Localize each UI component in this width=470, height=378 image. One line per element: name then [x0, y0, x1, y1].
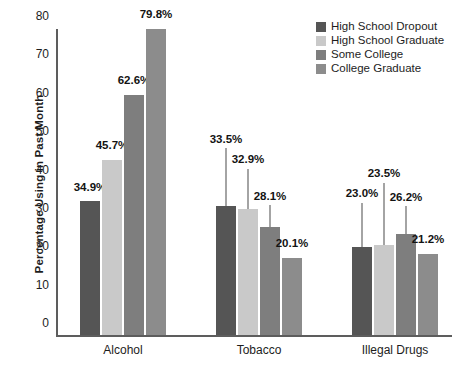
bar-group: 34.9%45.7%62.6%79.8%	[80, 28, 166, 335]
bar[interactable]	[352, 247, 372, 335]
y-tick-label: 60	[36, 87, 49, 99]
bar-column[interactable]: 34.9%	[80, 28, 100, 335]
bar-value-label: 79.8%	[140, 9, 173, 21]
bar[interactable]	[374, 245, 394, 335]
bar-value-label: 20.1%	[276, 238, 309, 250]
bar-column[interactable]: 20.1%	[282, 28, 302, 335]
bar[interactable]	[80, 201, 100, 335]
legend-item[interactable]: High School Dropout	[316, 20, 444, 33]
bar[interactable]	[238, 209, 258, 335]
y-tick-label: 30	[36, 202, 49, 214]
bar[interactable]	[124, 95, 144, 335]
value-leader-line	[226, 148, 227, 206]
legend-swatch-icon	[316, 36, 326, 46]
legend-swatch-icon	[316, 50, 326, 60]
y-tick-label: 50	[36, 125, 49, 137]
category-label: Alcohol	[103, 343, 142, 357]
bar-column[interactable]: 62.6%	[124, 28, 144, 335]
y-tick-label: 70	[36, 48, 49, 60]
bar[interactable]	[102, 160, 122, 335]
legend-label: High School Graduate	[331, 35, 444, 47]
legend-swatch-icon	[316, 22, 326, 32]
value-leader-line	[384, 183, 385, 245]
legend-label: College Graduate	[331, 63, 421, 75]
bar-column[interactable]: 33.5%	[216, 28, 236, 335]
bar-group-bars: 33.5%32.9%28.1%20.1%	[216, 28, 302, 335]
bar-column[interactable]: 32.9%	[238, 28, 258, 335]
category-label: Illegal Drugs	[362, 343, 429, 357]
legend-swatch-icon	[316, 64, 326, 74]
y-tick-label: 10	[36, 279, 49, 291]
y-tick-label: 20	[36, 240, 49, 252]
legend: High School DropoutHigh School GraduateS…	[316, 20, 444, 75]
bar-group-bars: 34.9%45.7%62.6%79.8%	[80, 28, 166, 335]
bar[interactable]	[146, 29, 166, 335]
bar-column[interactable]: 28.1%	[260, 28, 280, 335]
bar-chart: Percentage Using in Past Month 010203040…	[0, 0, 470, 378]
y-tick-label: 0	[42, 317, 49, 329]
value-leader-line	[270, 205, 271, 227]
legend-label: High School Dropout	[331, 21, 437, 33]
x-axis-line	[56, 335, 452, 337]
legend-label: Some College	[331, 49, 403, 61]
bar-value-label: 21.2%	[412, 234, 445, 246]
legend-item[interactable]: Some College	[316, 48, 444, 61]
legend-item[interactable]: College Graduate	[316, 62, 444, 75]
y-tick-label: 80	[36, 10, 49, 22]
bar-group: 33.5%32.9%28.1%20.1%	[216, 28, 302, 335]
value-leader-line	[248, 169, 249, 209]
value-leader-line	[406, 206, 407, 234]
y-axis-line	[56, 29, 58, 337]
bar[interactable]	[282, 258, 302, 335]
bar[interactable]	[418, 254, 438, 335]
bar[interactable]	[216, 206, 236, 335]
bar-column[interactable]: 79.8%	[146, 28, 166, 335]
value-leader-line	[362, 203, 363, 247]
y-tick-label: 40	[36, 164, 49, 176]
category-label: Tobacco	[237, 343, 282, 357]
legend-item[interactable]: High School Graduate	[316, 34, 444, 47]
bar[interactable]	[396, 234, 416, 335]
